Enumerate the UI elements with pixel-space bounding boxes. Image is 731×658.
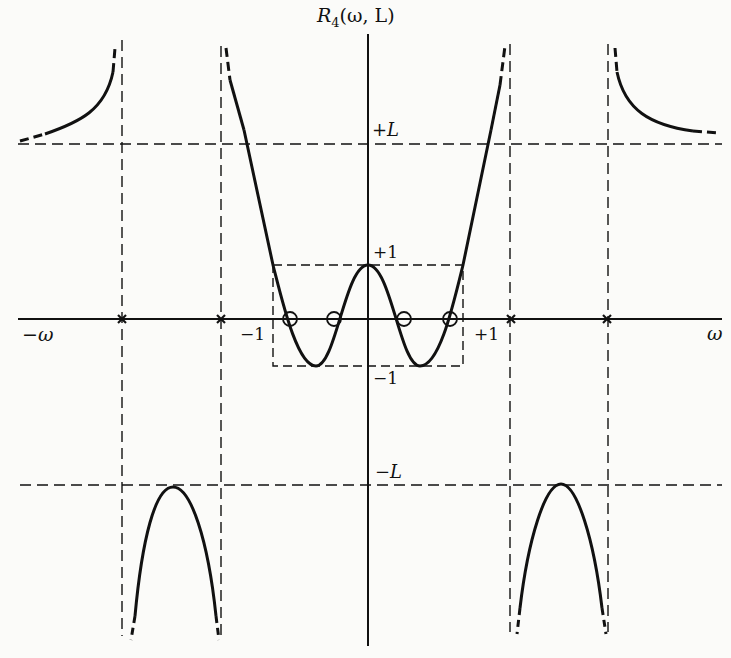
x-axis-label-pos: ω xyxy=(707,322,723,344)
y-label-subscript: 4 xyxy=(331,15,339,30)
lower-right-branch-dashed xyxy=(517,608,606,634)
curve-right-rise xyxy=(491,85,500,130)
upper-left-branch-dashed xyxy=(20,48,115,141)
y-label-main: R xyxy=(316,4,331,26)
minus-one-label: −1 xyxy=(373,368,398,388)
x-tick-plus-one: +1 xyxy=(474,324,499,344)
lower-left-branch-dashed xyxy=(131,616,219,640)
plus-L-label: +L xyxy=(372,119,399,140)
upper-right-branch xyxy=(617,72,693,131)
curve-left-rise-dashed xyxy=(226,48,230,80)
curve-right-rise-dashed xyxy=(500,46,505,85)
x-tick-minus-one: −1 xyxy=(240,324,265,344)
upper-left-branch xyxy=(45,72,113,134)
x-axis-label-neg: −ω xyxy=(22,323,53,345)
curve-left-rise xyxy=(230,80,244,130)
elliptic-rational-function-diagram: R4(ω, L) +L −L +1 −1 −1 +1 −ω ω xyxy=(0,0,731,658)
plus-one-label: +1 xyxy=(373,242,398,262)
y-axis-label: R4(ω, L) xyxy=(316,4,395,30)
y-label-args: (ω, L) xyxy=(340,4,395,26)
upper-right-branch-dashed xyxy=(615,48,718,133)
lower-right-branch xyxy=(520,484,602,608)
minus-L-label: −L xyxy=(375,461,402,482)
lower-left-branch xyxy=(135,487,216,616)
